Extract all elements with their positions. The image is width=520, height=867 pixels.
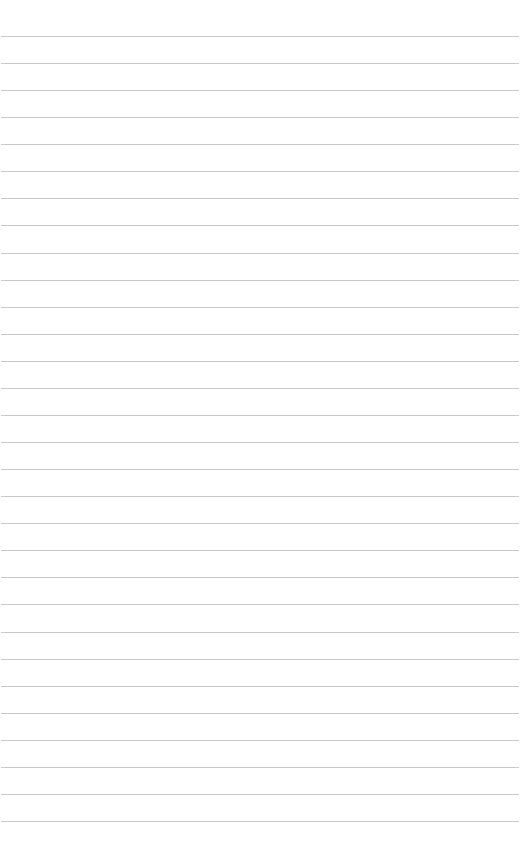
ruled-line — [1, 388, 519, 389]
ruled-line — [1, 225, 519, 226]
ruled-line — [1, 659, 519, 660]
ruled-line — [1, 90, 519, 91]
ruled-line — [1, 794, 519, 795]
ruled-line — [1, 496, 519, 497]
lined-paper-sheet — [0, 0, 520, 867]
ruled-line — [1, 469, 519, 470]
ruled-line — [1, 36, 519, 37]
ruled-line — [1, 632, 519, 633]
ruled-line — [1, 361, 519, 362]
ruled-line — [1, 442, 519, 443]
ruled-line — [1, 334, 519, 335]
ruled-line — [1, 280, 519, 281]
ruled-line — [1, 686, 519, 687]
ruled-line — [1, 523, 519, 524]
ruled-line — [1, 550, 519, 551]
ruled-line — [1, 198, 519, 199]
ruled-line — [1, 144, 519, 145]
ruled-line — [1, 253, 519, 254]
ruled-line — [1, 713, 519, 714]
ruled-line — [1, 821, 519, 822]
ruled-line — [1, 171, 519, 172]
ruled-line — [1, 577, 519, 578]
ruled-line — [1, 604, 519, 605]
ruled-line — [1, 415, 519, 416]
ruled-line — [1, 307, 519, 308]
ruled-line — [1, 740, 519, 741]
ruled-line — [1, 63, 519, 64]
ruled-line — [1, 117, 519, 118]
ruled-line — [1, 767, 519, 768]
